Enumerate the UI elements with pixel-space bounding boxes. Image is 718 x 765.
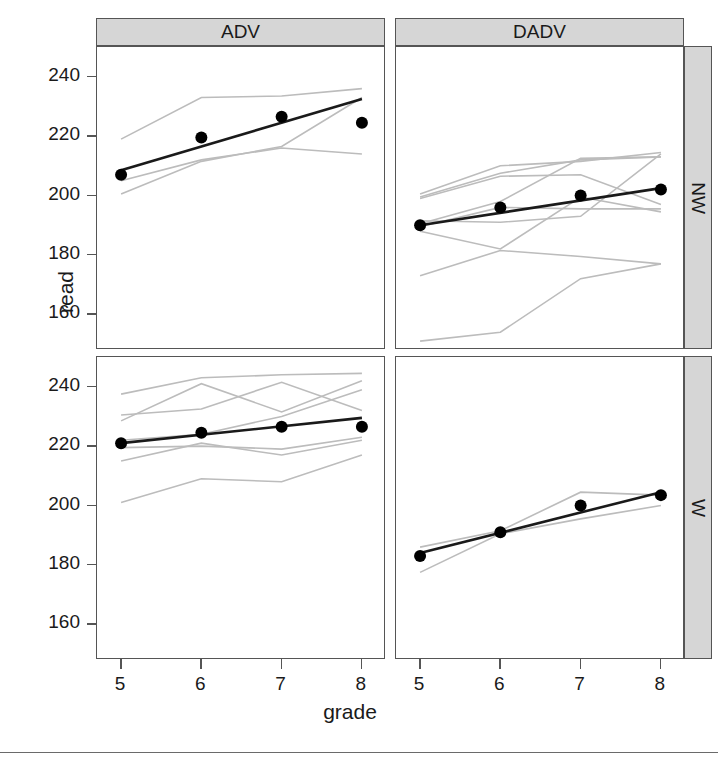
strip-header-row-w: W bbox=[684, 356, 712, 659]
y-tick-label: 160 bbox=[18, 301, 80, 323]
x-tick-mark bbox=[499, 659, 501, 669]
strip-label: NW bbox=[687, 182, 709, 214]
x-tick-label: 5 bbox=[404, 673, 434, 695]
mean-data-point bbox=[356, 117, 368, 129]
y-tick-mark bbox=[87, 623, 96, 625]
mean-data-point bbox=[195, 427, 207, 439]
mean-data-point bbox=[575, 190, 587, 202]
panel-dadv-w bbox=[395, 356, 684, 659]
y-tick-mark bbox=[87, 505, 96, 507]
mean-data-point bbox=[575, 500, 587, 512]
subject-trajectory-line bbox=[121, 148, 362, 181]
y-tick-mark bbox=[87, 195, 96, 197]
y-tick-mark bbox=[87, 254, 96, 256]
y-tick-mark bbox=[87, 76, 96, 78]
regression-fit-line bbox=[420, 492, 661, 553]
x-tick-mark bbox=[281, 659, 283, 669]
strip-header-column-adv: ADV bbox=[96, 18, 385, 46]
subject-trajectory-line bbox=[121, 455, 362, 503]
x-tick-mark bbox=[361, 659, 363, 669]
panel-canvas bbox=[396, 357, 682, 657]
x-tick-label: 8 bbox=[645, 673, 675, 695]
mean-data-point bbox=[115, 169, 127, 181]
panel-adv-nw bbox=[96, 46, 385, 349]
y-tick-label: 240 bbox=[18, 374, 80, 396]
strip-header-column-dadv: DADV bbox=[395, 18, 684, 46]
mean-data-point bbox=[356, 421, 368, 433]
x-tick-mark bbox=[200, 659, 202, 669]
y-tick-label: 200 bbox=[18, 493, 80, 515]
mean-data-point bbox=[414, 219, 426, 231]
panel-canvas bbox=[396, 47, 682, 347]
x-tick-label: 8 bbox=[346, 673, 376, 695]
y-tick-label: 160 bbox=[18, 611, 80, 633]
x-tick-label: 7 bbox=[266, 673, 296, 695]
panel-canvas bbox=[97, 357, 383, 657]
mean-data-point bbox=[195, 132, 207, 144]
mean-data-point bbox=[115, 437, 127, 449]
subject-trajectory-line bbox=[121, 373, 362, 394]
y-tick-label: 240 bbox=[18, 64, 80, 86]
panel-dadv-nw bbox=[395, 46, 684, 349]
subject-trajectory-line bbox=[420, 264, 661, 341]
subject-trajectory-line bbox=[121, 98, 362, 195]
y-tick-label: 220 bbox=[18, 123, 80, 145]
subject-trajectory-line bbox=[420, 506, 661, 573]
panel-adv-w bbox=[96, 356, 385, 659]
y-tick-label: 180 bbox=[18, 552, 80, 574]
y-tick-mark bbox=[87, 135, 96, 137]
mean-data-point bbox=[414, 550, 426, 562]
x-tick-label: 5 bbox=[105, 673, 135, 695]
x-tick-mark bbox=[660, 659, 662, 669]
mean-data-point bbox=[655, 489, 667, 501]
x-tick-label: 6 bbox=[185, 673, 215, 695]
y-tick-mark bbox=[87, 313, 96, 315]
x-axis-label: grade bbox=[0, 700, 700, 724]
mean-data-point bbox=[494, 526, 506, 538]
mean-data-point bbox=[276, 421, 288, 433]
strip-label: W bbox=[687, 499, 709, 517]
subject-trajectory-line bbox=[420, 250, 661, 275]
x-tick-mark bbox=[120, 659, 122, 669]
mean-data-point bbox=[494, 201, 506, 213]
subject-trajectory-line bbox=[121, 89, 362, 139]
x-tick-mark bbox=[580, 659, 582, 669]
y-tick-label: 180 bbox=[18, 242, 80, 264]
footer-divider bbox=[0, 752, 718, 753]
x-tick-label: 6 bbox=[484, 673, 514, 695]
strip-header-row-nw: NW bbox=[684, 46, 712, 349]
strip-label: DADV bbox=[513, 21, 566, 43]
mean-data-point bbox=[655, 184, 667, 196]
y-tick-mark bbox=[87, 564, 96, 566]
regression-fit-line bbox=[121, 418, 362, 443]
y-tick-mark bbox=[87, 445, 96, 447]
mean-data-point bbox=[276, 111, 288, 123]
y-tick-label: 200 bbox=[18, 183, 80, 205]
subject-trajectory-line bbox=[420, 197, 661, 249]
panel-canvas bbox=[97, 47, 383, 347]
y-tick-mark bbox=[87, 386, 96, 388]
x-tick-label: 7 bbox=[565, 673, 595, 695]
x-tick-mark bbox=[419, 659, 421, 669]
regression-fit-line bbox=[121, 99, 362, 170]
trellis-plot: read grade 16016018018020020022022024024… bbox=[0, 0, 718, 765]
y-tick-label: 220 bbox=[18, 433, 80, 455]
strip-label: ADV bbox=[221, 21, 260, 43]
